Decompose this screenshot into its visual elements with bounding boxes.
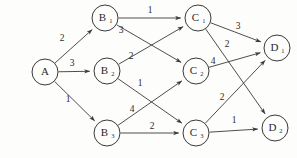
edge-weight-C2-D1: 4 [211,56,216,66]
edge-C3-D2 [209,129,257,132]
edge-weight-C3-D2: 1 [232,115,237,125]
network-diagram: AB1B2B3C1C2C3D1D2 23113214232421 [0,0,297,158]
edge-weight-C1-D2: 2 [225,39,230,49]
node-subscript-B1: 1 [109,17,112,24]
node-label-B2: B [101,64,108,76]
node-subscript-B3: 3 [111,132,114,139]
edge-B2-C3 [118,79,182,123]
edge-weight-B1-C2: 3 [119,25,124,35]
node-label-A: A [41,65,49,77]
edge-C1-D2 [206,29,265,114]
edge-weight-B3-C3: 2 [150,121,155,131]
node-D1[interactable]: D1 [264,35,290,61]
edge-weight-A-B2: 3 [70,58,75,68]
node-C3[interactable]: C3 [183,120,209,146]
edge-C2-D1 [209,53,260,68]
edge-weight-C3-D1: 2 [220,92,225,102]
node-B3[interactable]: B3 [94,120,120,146]
edge-B1-C2 [117,25,181,63]
node-B2[interactable]: B2 [94,58,120,84]
edge-weight-B2-C3: 1 [138,78,143,88]
node-label-B1: B [99,11,106,23]
node-label-C2: C [190,64,197,76]
node-D2[interactable]: D2 [262,115,288,141]
edge-B3-C2 [118,81,182,125]
node-subscript-C2: 2 [200,70,203,77]
node-label-C1: C [192,11,199,23]
node-subscript-B2: 2 [111,70,114,77]
edge-weight-B2-C1: 2 [129,51,134,61]
edge-weight-B3-C2: 4 [130,104,135,114]
edge-weight-A-B1: 2 [60,33,65,43]
node-A[interactable]: A [32,59,58,85]
node-label-D1: D [271,41,279,53]
edge-A-B3 [55,81,95,120]
edge-weight-A-B3: 1 [66,94,71,104]
diagram-canvas: AB1B2B3C1C2C3D1D2 23113214232421 [0,0,297,158]
node-C1[interactable]: C1 [185,5,211,31]
node-C2[interactable]: C2 [183,58,209,84]
node-subscript-D1: 1 [281,47,284,54]
node-label-C3: C [190,126,197,138]
edge-C3-D1 [205,60,265,123]
node-subscript-C3: 3 [200,132,203,139]
node-label-D2: D [269,121,277,133]
node-subscript-D2: 2 [279,127,282,134]
node-subscript-C1: 1 [202,17,205,24]
edge-A-B2 [59,71,90,72]
node-B1[interactable]: B1 [92,5,118,31]
node-label-B3: B [101,126,108,138]
edge-weight-B1-C1: 1 [148,5,153,15]
edge-weight-C1-D1: 3 [236,21,241,31]
